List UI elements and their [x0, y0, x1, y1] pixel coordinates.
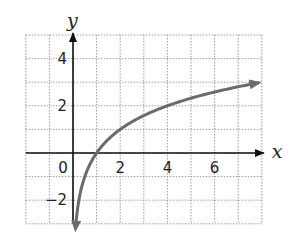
y-axis-label: y [66, 9, 78, 31]
x-tick-label: 4 [163, 159, 173, 177]
y-tick-label: −2 [45, 191, 67, 209]
x-axis-label: x [272, 140, 283, 162]
y-tick-label: 2 [57, 97, 67, 115]
x-tick-label: 6 [210, 159, 220, 177]
x-tick-label: 2 [115, 159, 125, 177]
x-tick-label: 0 [58, 159, 68, 177]
log-graph: 024642−2 x y [0, 0, 295, 245]
y-tick-label: 4 [57, 50, 67, 68]
